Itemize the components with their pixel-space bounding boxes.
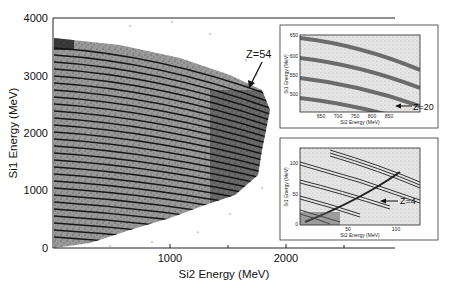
inset-upper-x-650: 650 xyxy=(317,113,326,119)
inset-upper-y-label: Si1 Energy (MeV) xyxy=(283,54,289,94)
x-tick-2000: 2000 xyxy=(274,252,298,264)
y-tick-3000: 3000 xyxy=(24,70,48,82)
x-tick-1000: 1000 xyxy=(158,252,182,264)
inset-upper: 650 600 550 500 650 700 750 800 850 Si2 … xyxy=(280,25,438,128)
z4-label: Z=4 xyxy=(400,196,416,206)
y-tick-2000: 2000 xyxy=(24,127,48,139)
z54-annotation: Z=54 xyxy=(246,48,271,88)
inset-upper-y-550: 550 xyxy=(290,72,299,78)
y-tick-1000: 1000 xyxy=(24,184,48,196)
x-axis-label: Si2 Energy (MeV) xyxy=(179,268,270,280)
y-axis-label: Si1 Energy (MeV) xyxy=(7,87,19,178)
inset-lower-x-label: Si2 Energy (MeV) xyxy=(340,232,380,238)
inset-upper-y-650: 650 xyxy=(290,32,299,38)
inset-lower: 100 50 0 50 100 Si2 Energy (MeV) Si1 Ene… xyxy=(280,138,438,240)
inset-lower-x-100: 100 xyxy=(392,226,401,232)
chart-canvas: 0 1000 2000 3000 4000 1000 2000 Si2 Ener… xyxy=(0,0,449,291)
inset-lower-y-0: 0 xyxy=(295,221,298,227)
inset-upper-x-label: Si2 Energy (MeV) xyxy=(340,119,380,125)
inset-upper-y-500: 500 xyxy=(290,91,299,97)
inset-lower-y-50: 50 xyxy=(292,191,298,197)
inset-lower-y-label: Si1 Energy (MeV) xyxy=(283,167,289,207)
inset-upper-x-850: 850 xyxy=(385,113,394,119)
y-tick-4000: 4000 xyxy=(24,12,48,24)
z54-label: Z=54 xyxy=(246,48,271,60)
z20-label: Z=20 xyxy=(413,102,434,112)
inset-lower-y-100: 100 xyxy=(290,160,299,166)
inset-upper-y-600: 600 xyxy=(290,53,299,59)
y-tick-0: 0 xyxy=(42,242,48,254)
